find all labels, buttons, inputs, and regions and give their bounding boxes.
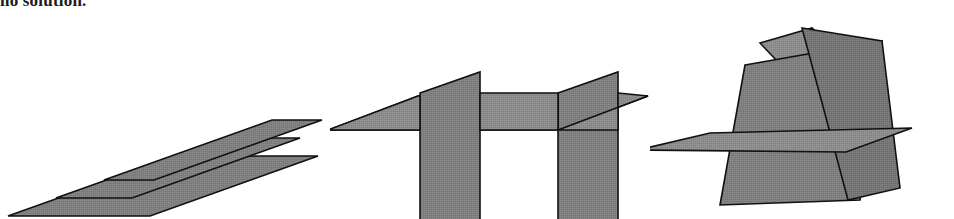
plane-horizontal-between-strip — [480, 93, 558, 130]
two-parallel-planes-cut-svg — [330, 0, 650, 219]
triangular-prism-planes-svg — [650, 0, 954, 219]
plane-vertical-left — [420, 72, 480, 219]
plane-horizontal-left-strip — [330, 96, 420, 130]
figure-two-parallel-planes-cut — [330, 0, 650, 219]
figure-three-parallel-planes — [0, 0, 330, 219]
figure-triangular-prism-planes — [650, 0, 954, 219]
plane-vertical-right — [558, 72, 618, 219]
three-parallel-planes-svg — [0, 0, 330, 219]
